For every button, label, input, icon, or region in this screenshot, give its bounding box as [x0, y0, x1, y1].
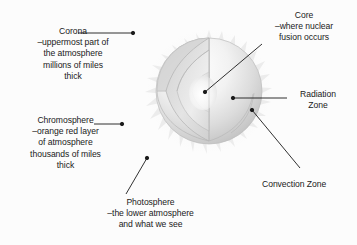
- leader-photosphere: [126, 158, 147, 194]
- sun-layers-diagram: Corona –uppermost part of the atmosphere…: [0, 0, 357, 245]
- label-corona: Corona –uppermost part of the atmosphere…: [14, 26, 132, 82]
- label-chromosphere: Chromosphere –orange red layer of atmosp…: [8, 115, 123, 171]
- label-convection-zone: Convection Zone: [262, 179, 354, 190]
- leader-dot-photosphere: [145, 156, 148, 159]
- leader-dot-radiation-zone: [231, 96, 234, 99]
- leader-dot-convection-zone: [250, 108, 253, 111]
- label-radiation-zone: Radiation Zone: [286, 89, 350, 111]
- leader-convection-zone: [252, 110, 300, 168]
- label-core: Core –where nuclear fusion occurs: [256, 10, 352, 44]
- leader-dot-core: [203, 90, 206, 93]
- label-photosphere: Photosphere –the lower atmosphere and wh…: [78, 197, 223, 231]
